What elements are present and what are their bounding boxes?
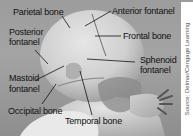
label-occipital-bone: Occipital bone — [8, 106, 62, 116]
label-mastoid-fontanel-line1: Mastoid — [9, 73, 39, 83]
label-anterior-fontanel: Anterior fontanel — [112, 6, 175, 16]
figure-canvas: Parietal bone Anterior fontanel Posterio… — [0, 0, 193, 136]
label-frontal-bone: Frontal bone — [123, 31, 171, 41]
label-mastoid-fontanel-line2: fontanel — [9, 84, 39, 94]
label-posterior-fontanel-line2: fontanel — [9, 37, 39, 47]
label-sphenoid-fontanel-line1: Sphenoid — [140, 55, 176, 65]
source-credit: Source: Delmar/Cengage Learning — [181, 2, 193, 136]
label-temporal-bone: Temporal bone — [65, 116, 122, 126]
label-sphenoid-fontanel-line2: fontanel — [140, 65, 170, 75]
label-posterior-fontanel-line1: Posterior — [9, 27, 43, 37]
label-parietal-bone: Parietal bone — [13, 7, 63, 17]
source-credit-text: Source: Delmar/Cengage Learning — [184, 23, 190, 116]
